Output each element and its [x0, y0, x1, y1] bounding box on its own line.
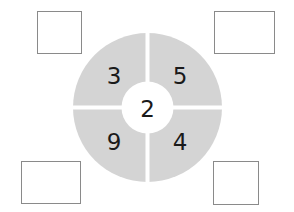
segment-number-top-right: 5	[173, 63, 188, 89]
segment-number-bottom-left: 9	[107, 129, 122, 155]
segment-number-top-left: 3	[107, 63, 122, 89]
center-number: 2	[140, 96, 155, 122]
segment-number-bottom-right: 4	[173, 129, 188, 155]
number-wheel: 3 5 9 4 2	[0, 0, 294, 212]
